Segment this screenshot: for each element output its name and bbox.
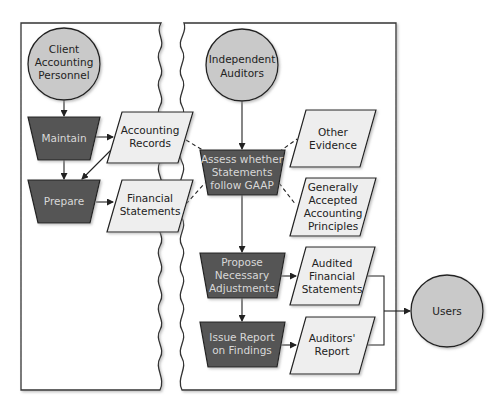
svg-text:Personnel: Personnel xyxy=(38,69,89,81)
svg-text:Accounting: Accounting xyxy=(121,124,180,136)
svg-text:Evidence: Evidence xyxy=(309,139,357,151)
svg-text:Report: Report xyxy=(315,345,350,357)
svg-text:Client: Client xyxy=(49,43,79,55)
svg-text:Financial: Financial xyxy=(309,270,355,282)
svg-text:Statements: Statements xyxy=(212,166,273,178)
svg-text:Necessary: Necessary xyxy=(215,269,269,281)
svg-text:Propose: Propose xyxy=(221,256,263,268)
svg-text:Records: Records xyxy=(129,137,171,149)
svg-text:Assess whether: Assess whether xyxy=(201,153,284,165)
svg-text:Principles: Principles xyxy=(308,220,358,232)
svg-text:Statements: Statements xyxy=(302,283,363,295)
client-accounting-personnel-entity: Client Accounting Personnel xyxy=(28,28,100,100)
svg-text:Maintain: Maintain xyxy=(41,132,86,144)
svg-text:Accepted: Accepted xyxy=(309,194,358,206)
svg-text:Accounting: Accounting xyxy=(304,207,363,219)
users-entity: Users xyxy=(411,275,483,347)
svg-text:Users: Users xyxy=(432,305,461,317)
svg-text:Independent: Independent xyxy=(209,53,276,65)
svg-text:Other: Other xyxy=(318,126,348,138)
svg-text:on Findings: on Findings xyxy=(212,344,272,356)
svg-text:Auditors: Auditors xyxy=(220,67,264,79)
accounting-records-document: Accounting Records xyxy=(107,112,193,163)
propose-adjustments-process: Propose Necessary Adjustments xyxy=(200,253,285,298)
independent-auditors-entity: Independent Auditors xyxy=(206,29,278,101)
financial-statements-document: Financial Statements xyxy=(107,180,193,232)
svg-text:Financial: Financial xyxy=(127,192,173,204)
maintain-process: Maintain xyxy=(28,117,100,160)
issue-report-process: Issue Report on Findings xyxy=(200,322,285,367)
svg-text:Prepare: Prepare xyxy=(44,195,84,207)
svg-text:Audited: Audited xyxy=(312,257,353,269)
prepare-process: Prepare xyxy=(28,180,100,223)
svg-text:Generally: Generally xyxy=(308,181,359,193)
svg-text:Statements: Statements xyxy=(120,205,181,217)
svg-text:follow GAAP: follow GAAP xyxy=(210,179,273,191)
assess-gaap-process: Assess whether Statements follow GAAP xyxy=(200,150,285,195)
svg-text:Accounting: Accounting xyxy=(35,56,94,68)
audit-flow-diagram: Client Accounting Personnel Independent … xyxy=(0,0,501,408)
svg-text:Adjustments: Adjustments xyxy=(209,282,275,294)
svg-text:Auditors': Auditors' xyxy=(309,332,356,344)
svg-text:Issue Report: Issue Report xyxy=(209,331,274,343)
